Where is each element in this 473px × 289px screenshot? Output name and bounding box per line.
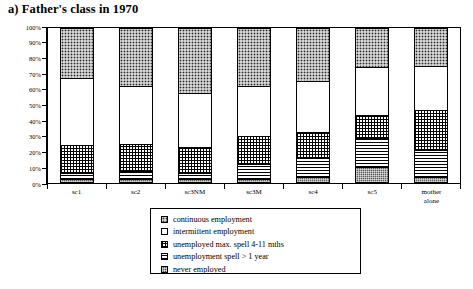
bar-segment <box>120 144 152 172</box>
bar-segment <box>356 167 388 182</box>
chart-title: a) Father's class in 1970 <box>8 2 138 17</box>
legend-item[interactable]: unemployment spell > 1 year <box>161 251 360 263</box>
bar-segment <box>356 67 388 114</box>
legend-item[interactable]: intermittent employment <box>161 226 360 238</box>
legend-item[interactable]: unemployed max. spell 4-11 mths <box>161 238 360 250</box>
stacked-bar[interactable] <box>119 28 153 183</box>
legend-item-label: continuous employment <box>173 215 252 224</box>
x-axis-label-line: sc3NM <box>165 188 224 197</box>
x-axis-label-line: sc3M <box>224 188 283 197</box>
light-stipple-swatch <box>161 266 168 273</box>
bar-segment <box>238 164 270 179</box>
stacked-bar[interactable] <box>296 28 330 183</box>
bar-segment <box>297 29 329 81</box>
bar-segment <box>415 29 447 66</box>
bar-segment <box>120 171 152 179</box>
bar-segment <box>356 29 388 67</box>
x-axis-label-line: sc2 <box>106 188 165 197</box>
bar-segment <box>179 29 211 93</box>
bar-segment <box>297 177 329 182</box>
stacked-bar-chart: a) Father's class in 1970 100%90%80%70%6… <box>0 0 473 289</box>
bar-segment <box>238 179 270 182</box>
chart-legend: continuous employmentintermittent employ… <box>150 208 361 274</box>
white-swatch <box>161 228 168 235</box>
bar-segment <box>356 115 388 138</box>
legend-item-label: intermittent employment <box>173 227 254 236</box>
x-axis-labels: sc1sc2sc3NMsc3Msc4sc5motheralone <box>47 188 461 206</box>
legend-item-label: unemployment spell > 1 year <box>173 252 269 261</box>
bar-slot <box>401 28 460 183</box>
x-axis-label-line: alone <box>402 197 461 206</box>
bar-segment <box>415 177 447 182</box>
legend-item-label: unemployed max. spell 4-11 mths <box>173 240 284 249</box>
stacked-bar[interactable] <box>414 28 448 183</box>
bar-slot <box>166 28 225 183</box>
bar-segment <box>179 179 211 182</box>
x-axis-label: sc3NM <box>165 188 224 206</box>
stacked-bar[interactable] <box>237 28 271 183</box>
x-axis-label: sc5 <box>343 188 402 206</box>
bar-segment <box>61 179 93 182</box>
bar-segment <box>238 86 270 136</box>
x-axis-label: motheralone <box>402 188 461 206</box>
bar-slot <box>283 28 342 183</box>
bar-segment <box>415 110 447 150</box>
bar-segment <box>297 81 329 131</box>
stacked-bar[interactable] <box>178 28 212 183</box>
legend-item[interactable]: never employed <box>161 263 360 275</box>
bar-segment <box>120 179 152 182</box>
bar-segment <box>297 158 329 178</box>
bar-segment <box>120 86 152 144</box>
bar-segment <box>238 136 270 164</box>
plot-area <box>47 27 461 184</box>
x-axis-label: sc3M <box>224 188 283 206</box>
bar-segment <box>179 93 211 147</box>
bar-slot <box>107 28 166 183</box>
grid-swatch <box>161 241 168 248</box>
bar-segment <box>415 66 447 110</box>
stacked-bar[interactable] <box>60 28 94 183</box>
horizontal-lines-swatch <box>161 253 168 260</box>
dark-stipple-swatch <box>161 216 168 223</box>
bar-segment <box>61 29 93 78</box>
bar-segment <box>297 132 329 158</box>
bar-slot <box>342 28 401 183</box>
legend-item-label: never employed <box>173 265 226 274</box>
x-axis-label: sc2 <box>106 188 165 206</box>
y-axis: 100%90%80%70%60%50%40%30%20%10%0% <box>0 27 47 184</box>
bar-segment <box>179 147 211 173</box>
x-axis-label-line: sc5 <box>343 188 402 197</box>
bar-slot <box>48 28 107 183</box>
bar-slot <box>225 28 284 183</box>
bars-container <box>48 28 460 183</box>
bar-segment <box>415 150 447 178</box>
bar-segment <box>120 29 152 86</box>
bar-segment <box>356 138 388 167</box>
x-axis-label: sc4 <box>284 188 343 206</box>
stacked-bar[interactable] <box>355 28 389 183</box>
x-axis-label: sc1 <box>47 188 106 206</box>
bar-segment <box>238 29 270 86</box>
x-axis-label-line: sc1 <box>47 188 106 197</box>
x-axis-label-line: mother <box>402 188 461 197</box>
legend-item[interactable]: continuous employment <box>161 213 360 225</box>
bar-segment <box>61 78 93 145</box>
bar-segment <box>61 145 93 173</box>
x-axis-label-line: sc4 <box>284 188 343 197</box>
